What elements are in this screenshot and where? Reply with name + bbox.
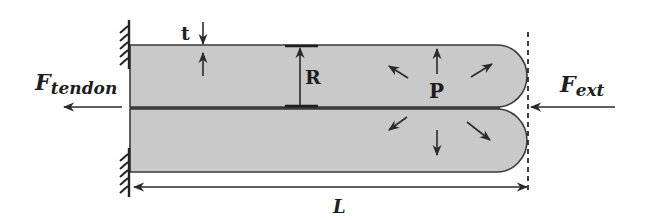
svg-text:Fext: Fext [559,71,605,100]
svg-text:Ftendon: Ftendon [34,69,117,98]
length-label: L [332,196,346,217]
external-force-arrow: Fext [531,71,615,107]
lower-chamber [130,109,527,172]
length-dimension: L [134,187,527,217]
fixed-wall-bottom [120,148,129,197]
tendon-force-subscript: tendon [51,78,118,98]
tendon-force-arrow: Ftendon [34,69,122,107]
pressure-label: P [429,79,444,103]
tendon-force-symbol: F [34,69,52,95]
diagram-canvas: t R P Ftendon Fext L [0,0,645,220]
external-force-symbol: F [559,71,577,97]
upper-chamber [130,45,527,107]
fixed-wall-top [120,20,129,69]
external-force-subscript: ext [576,80,605,100]
radius-label: R [305,66,321,88]
thickness-label: t [181,22,190,44]
